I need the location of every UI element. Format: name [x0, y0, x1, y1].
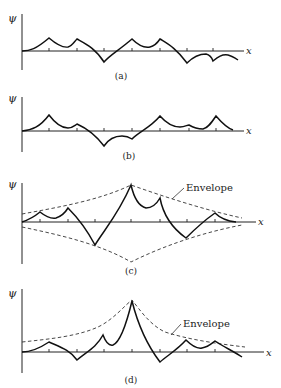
panel-c: ψ x Envelope (c) — [8, 178, 264, 276]
x-axis-label: x — [246, 45, 252, 56]
panel-a: ψ x (a) — [8, 12, 252, 81]
y-axis-label: ψ — [8, 178, 17, 191]
panel-caption: (c) — [125, 266, 137, 276]
panel-caption: (d) — [125, 375, 138, 385]
x-axis-label: x — [246, 125, 252, 136]
x-axis-label: x — [258, 216, 264, 227]
wave-curve — [22, 301, 242, 362]
panel-caption: (b) — [123, 151, 136, 161]
envelope-label: Envelope — [186, 182, 233, 193]
envelope-lower — [22, 225, 242, 262]
wavefunction-figure: ψ x (a) ψ x (b) — [0, 0, 281, 388]
envelope-label: Envelope — [183, 318, 230, 329]
panel-caption: (a) — [115, 71, 127, 81]
envelope-leader — [171, 324, 181, 335]
panel-b: ψ x (b) — [8, 92, 252, 161]
panel-d: ψ x Envelope (d) — [8, 287, 272, 385]
y-axis-label: ψ — [8, 92, 17, 105]
y-axis-label: ψ — [8, 12, 17, 25]
y-axis-label: ψ — [8, 287, 17, 300]
x-axis-label: x — [266, 347, 272, 358]
wave-curve — [22, 185, 236, 245]
envelope-leader — [172, 188, 184, 199]
